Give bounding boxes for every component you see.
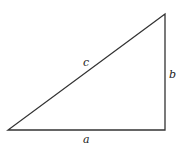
label-hypotenuse-c: c bbox=[83, 57, 89, 68]
triangle-figure bbox=[0, 0, 183, 148]
label-leg-b: b bbox=[169, 69, 176, 80]
label-leg-a: a bbox=[83, 134, 90, 145]
right-triangle bbox=[8, 14, 165, 130]
